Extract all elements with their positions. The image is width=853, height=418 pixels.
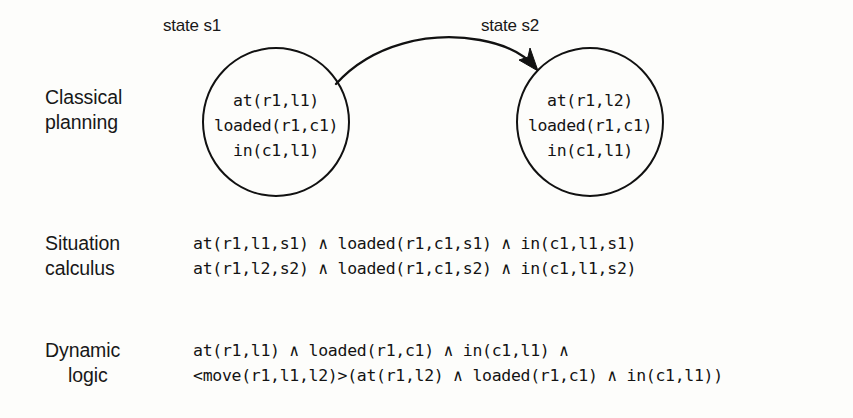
row-label-situation-calculus-line2: calculus: [45, 256, 115, 281]
state-s1-predicate-2: loaded(r1,c1): [204, 113, 348, 139]
dynamic-logic-formula-2: <move(r1,l1,l2)>(at(r1,l2) ∧ loaded(r1,c…: [193, 363, 723, 388]
state-caption-s1: state s1: [163, 16, 221, 36]
state-s2-predicate-2: loaded(r1,c1): [518, 113, 662, 139]
curved-arrow-icon: [336, 37, 536, 84]
row-label-dynamic-logic-line2: logic: [68, 363, 108, 388]
row-label-dynamic-logic-line1: Dynamic: [45, 338, 120, 363]
state-s1-predicate-3: in(c1,l1): [204, 138, 348, 164]
state-caption-s2: state s2: [481, 16, 539, 36]
state-node-s2: at(r1,l2) loaded(r1,c1) in(c1,l1): [516, 47, 664, 197]
dynamic-logic-formula-1: at(r1,l1) ∧ loaded(r1,c1) ∧ in(c1,l1) ∧: [193, 338, 569, 363]
row-label-situation-calculus-line1: Situation: [45, 231, 120, 256]
arrow-head-icon: [519, 48, 538, 71]
state-node-s1: at(r1,l1) loaded(r1,c1) in(c1,l1): [202, 47, 350, 197]
row-label-classical-planning-line1: Classical: [45, 85, 122, 110]
state-s2-predicate-1: at(r1,l2): [518, 88, 662, 114]
figure-canvas: state s1 state s2 Classical planning at(…: [0, 0, 853, 418]
state-s2-predicate-3: in(c1,l1): [518, 138, 662, 164]
state-s1-predicate-1: at(r1,l1): [204, 88, 348, 114]
situation-calculus-formula-2: at(r1,l2,s2) ∧ loaded(r1,c1,s2) ∧ in(c1,…: [193, 256, 636, 281]
situation-calculus-formula-1: at(r1,l1,s1) ∧ loaded(r1,c1,s1) ∧ in(c1,…: [193, 231, 636, 256]
row-label-classical-planning-line2: planning: [45, 110, 118, 135]
